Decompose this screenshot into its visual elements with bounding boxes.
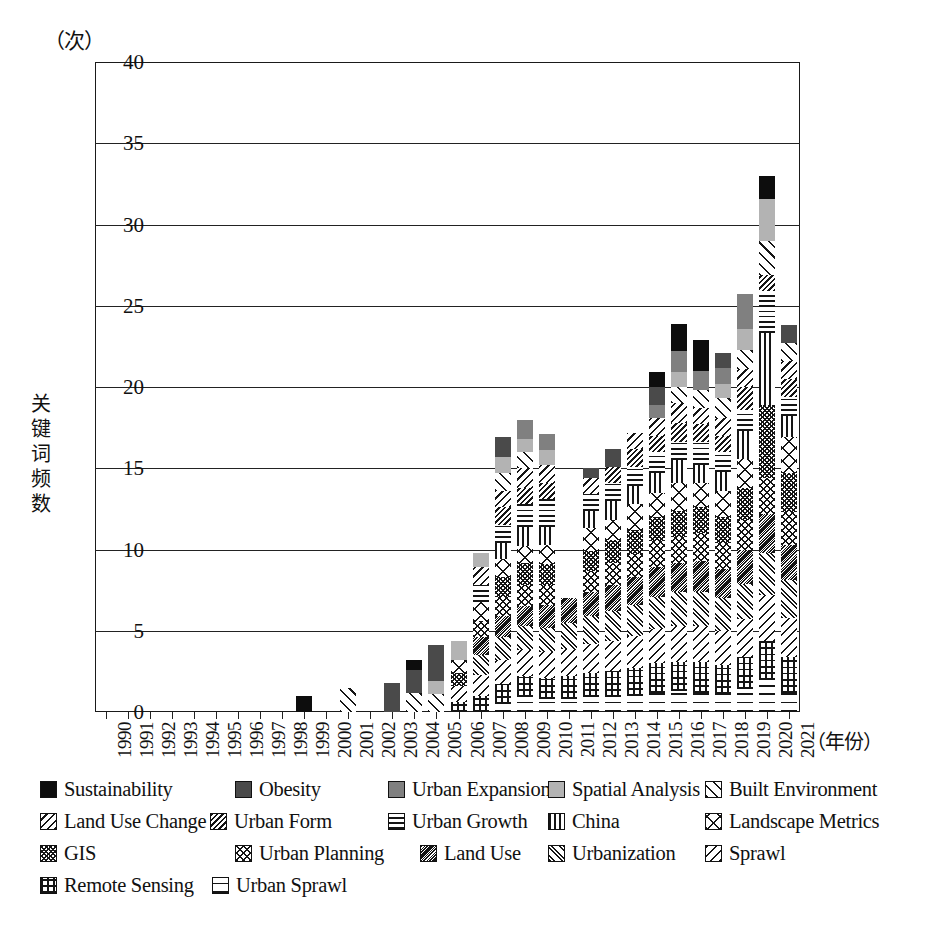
legend-item[interactable]: Urbanization: [548, 842, 675, 865]
legend-swatch-icon: [548, 781, 565, 798]
bar-segment: [715, 436, 731, 452]
bar-segment: [693, 592, 709, 626]
x-tick-mark: [128, 712, 129, 719]
bar-column[interactable]: [759, 62, 775, 712]
bar-segment: [406, 660, 422, 670]
legend-item[interactable]: Urban Planning: [235, 842, 384, 865]
bar-column[interactable]: [605, 62, 621, 712]
bar-segment: [781, 397, 797, 417]
bar-segment: [781, 693, 797, 713]
legend-item[interactable]: Built Environment: [705, 778, 877, 801]
bar-column[interactable]: [715, 62, 731, 712]
bar-segment: [693, 626, 709, 662]
x-tick-label: 2007: [489, 722, 511, 758]
bar-column[interactable]: [98, 62, 114, 712]
bar-column[interactable]: [274, 62, 290, 712]
bar-segment: [759, 514, 775, 553]
legend-label: GIS: [64, 842, 96, 865]
x-tick-label: 1994: [202, 722, 224, 758]
bar-column[interactable]: [693, 62, 709, 712]
bar-column[interactable]: [539, 62, 555, 712]
x-tick-mark: [304, 712, 305, 719]
legend-item[interactable]: Obesity: [235, 778, 321, 801]
bar-column[interactable]: [473, 62, 489, 712]
legend-item[interactable]: Landscape Metrics: [705, 810, 879, 833]
bar-segment: [495, 437, 511, 457]
bar-column[interactable]: [230, 62, 246, 712]
x-tick-mark: [436, 712, 437, 719]
bar-segment: [473, 637, 489, 655]
bar-segment: [781, 416, 797, 437]
legend-item[interactable]: Remote Sensing: [40, 874, 194, 897]
legend-item[interactable]: Urban Form: [210, 810, 332, 833]
bar-column[interactable]: [517, 62, 533, 712]
legend-item[interactable]: Sprawl: [705, 842, 785, 865]
bar-segment: [781, 343, 797, 361]
bar-segment: [715, 452, 731, 472]
bar-segment: [649, 597, 665, 630]
stacked-bars: [95, 62, 800, 712]
bar-segment: [384, 683, 400, 712]
x-tick-label: 2004: [422, 722, 444, 758]
bar-segment: [451, 702, 467, 712]
bar-column[interactable]: [384, 62, 400, 712]
bar-column[interactable]: [781, 62, 797, 712]
bar-column[interactable]: [362, 62, 378, 712]
bar-segment: [649, 567, 665, 596]
x-tick-label: 2001: [356, 722, 378, 758]
bar-segment: [715, 631, 731, 665]
bar-segment: [561, 623, 577, 649]
bar-segment: [539, 605, 555, 628]
bar-column[interactable]: [406, 62, 422, 712]
bar-column[interactable]: [340, 62, 356, 712]
bar-segment: [406, 670, 422, 693]
bar-segment: [517, 488, 533, 504]
bar-segment: [627, 449, 643, 467]
bar-column[interactable]: [428, 62, 444, 712]
x-tick-mark: [194, 712, 195, 719]
x-tick-mark: [723, 712, 724, 719]
bar-segment: [693, 561, 709, 592]
legend-item[interactable]: Land Use Change: [40, 810, 206, 833]
bar-column[interactable]: [186, 62, 202, 712]
bar-column[interactable]: [120, 62, 136, 712]
chart-figure: （次） 关键词频数 （年份） 0510152025303540 19901991…: [0, 0, 950, 950]
bar-segment: [671, 537, 687, 563]
bar-column[interactable]: [142, 62, 158, 712]
legend-item[interactable]: Urban Growth: [388, 810, 527, 833]
bar-column[interactable]: [164, 62, 180, 712]
legend-item[interactable]: Urban Sprawl: [212, 874, 347, 897]
bar-segment: [715, 398, 731, 418]
bar-column[interactable]: [451, 62, 467, 712]
bar-segment: [737, 369, 753, 387]
bar-column[interactable]: [561, 62, 577, 712]
bar-column[interactable]: [737, 62, 753, 712]
legend-item[interactable]: GIS: [40, 842, 96, 865]
bar-column[interactable]: [649, 62, 665, 712]
bar-segment: [715, 491, 731, 517]
bar-column[interactable]: [252, 62, 268, 712]
x-tick-mark: [172, 712, 173, 719]
legend-item[interactable]: China: [548, 810, 619, 833]
bar-segment: [583, 511, 599, 529]
bar-column[interactable]: [627, 62, 643, 712]
bar-segment: [517, 697, 533, 712]
bar-column[interactable]: [208, 62, 224, 712]
x-tick-mark: [745, 712, 746, 719]
bar-column[interactable]: [296, 62, 312, 712]
x-tick-mark: [348, 712, 349, 719]
bar-column[interactable]: [318, 62, 334, 712]
legend-item[interactable]: Land Use: [420, 842, 521, 865]
bar-column[interactable]: [583, 62, 599, 712]
x-tick-label: 2016: [687, 722, 709, 758]
legend-item[interactable]: Spatial Analysis: [548, 778, 700, 801]
bar-column[interactable]: [671, 62, 687, 712]
bar-segment: [671, 351, 687, 372]
bar-segment: [627, 636, 643, 669]
bar-column[interactable]: [495, 62, 511, 712]
legend-item[interactable]: Urban Expansion: [388, 778, 550, 801]
bar-segment: [693, 662, 709, 693]
legend-item[interactable]: Sustainability: [40, 778, 173, 801]
x-tick-mark: [679, 712, 680, 719]
legend-swatch-icon: [705, 781, 722, 798]
